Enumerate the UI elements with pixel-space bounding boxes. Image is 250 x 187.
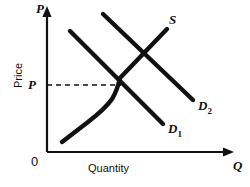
demand-curve-2-label: D2 — [198, 99, 212, 116]
price-level-label: P — [28, 78, 36, 91]
x-axis-title: Quantity — [88, 163, 129, 174]
y-axis-title: Price — [13, 52, 24, 100]
supply-demand-diagram: P Q P 0 Price Quantity S D1 D2 — [0, 0, 250, 187]
supply-curve-label-text: S — [169, 12, 176, 27]
demand-curve-1-label-subscript: 1 — [177, 129, 182, 139]
demand-curve-2-label-subscript: 2 — [207, 106, 212, 116]
x-axis — [47, 147, 234, 156]
supply-curve-label: S — [169, 13, 176, 26]
demand-curve-2-label-text: D — [198, 98, 207, 113]
x-axis-symbol-label: Q — [233, 159, 242, 172]
y-axis — [42, 6, 51, 152]
demand-curve-1-label: D1 — [168, 122, 182, 139]
y-axis-symbol-label: P — [36, 2, 44, 15]
origin-label: 0 — [31, 155, 38, 168]
demand-curve-1-label-text: D — [168, 121, 177, 136]
x-axis-arrowhead — [223, 147, 234, 156]
